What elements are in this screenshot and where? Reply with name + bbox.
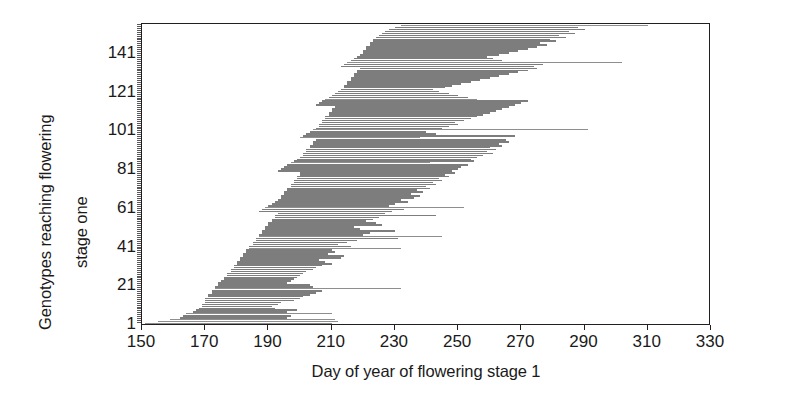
genotype-bar [275,201,408,203]
genotype-bar [351,60,503,62]
x-axis-tick-label: 330 [680,332,740,351]
x-axis-title: Day of year of flowering stage 1 [141,362,711,381]
genotype-bar [240,257,341,259]
x-axis-tick-label: 230 [364,332,424,351]
genotype-bar [278,213,385,215]
genotype-bar [215,288,402,289]
genotype-bar [297,178,439,180]
genotype-bar [360,68,537,70]
genotype-bar [347,83,461,85]
genotype-bar [224,278,294,280]
genotype-bar [370,42,541,44]
genotype-bar [316,104,515,106]
genotype-bar [246,251,335,253]
genotype-bar [268,205,388,207]
x-axis-tick [204,325,205,330]
y-axis-title: Genotypes reaching flowering stage one [0,0,96,340]
genotype-bar [385,31,568,33]
y-axis-tick-label: 101 [88,121,136,138]
genotype-bar [303,153,493,155]
genotype-bar [196,309,297,311]
genotype-bar [401,25,648,26]
genotype-bar [180,317,287,319]
genotype-bar [366,48,527,50]
genotype-bar [205,300,294,302]
genotype-bar [357,56,487,58]
genotype-bar [246,249,331,251]
genotype-bar [351,77,490,79]
x-axis-tick [141,325,142,330]
genotype-bar [294,182,433,184]
genotype-bar [237,263,332,265]
x-axis-tick-label: 210 [301,332,361,351]
genotype-bar [373,40,556,42]
genotype-bar [281,195,420,197]
y-axis-tick-label: 81 [88,160,136,177]
genotype-bar [329,97,468,99]
genotype-bar [224,277,297,279]
genotype-bar [215,286,313,288]
genotype-bar [208,296,303,298]
genotype-bar [373,39,550,41]
genotype-bar [347,81,470,83]
genotype-bar [376,37,566,39]
genotype-bar [357,71,518,73]
genotype-bar [310,145,503,147]
genotype-bar [313,143,500,145]
genotype-bar [145,323,332,324]
genotype-bar [278,199,401,201]
genotype-bar [249,248,401,249]
genotype-bar [294,180,443,182]
genotype-bar [322,100,527,102]
genotype-bar [344,85,451,87]
y-axis-title-line-1: Genotypes reaching flowering [36,115,55,331]
genotype-bar [344,64,543,66]
genotype-bar [278,170,452,172]
genotype-bar [379,35,559,37]
x-axis-tick [520,325,521,330]
plot-area [141,23,710,325]
genotype-bar [202,306,272,308]
genotype-bar [256,240,357,242]
genotype-bar [366,46,537,48]
genotype-bar [256,238,398,240]
genotype-bar [329,114,484,116]
y-axis-tick-label: 121 [88,83,136,100]
genotype-bar [316,128,442,130]
genotype-bar [294,160,474,162]
flowering-stage-chart: Genotypes reaching flowering stage one 1… [0,0,791,409]
genotype-bar [332,110,496,112]
genotype-bar [357,70,528,72]
y-axis-tick-label: 21 [88,276,136,293]
x-axis-tick-label: 270 [490,332,550,351]
x-axis-tick-label: 190 [237,332,297,351]
genotype-bar [259,211,392,213]
genotype-bar [284,191,423,193]
genotype-bar [335,106,509,108]
genotype-bar [306,151,486,153]
genotype-bar [262,232,369,234]
genotype-bar [221,280,291,282]
genotype-bar [316,139,506,141]
genotype-bar [300,157,477,159]
genotype-bar [322,120,464,122]
genotype-bar [344,87,445,89]
genotype-bar [234,267,316,269]
genotype-bar [272,219,373,221]
genotype-bar [319,102,521,104]
genotype-bar [287,164,467,166]
genotype-bar [389,29,585,31]
genotype-bar [268,224,382,226]
x-axis-tick-label: 150 [111,332,171,351]
genotype-bar [253,244,338,246]
genotype-bar [382,33,575,35]
genotype-bar [199,308,275,310]
x-axis-tick [331,325,332,330]
genotype-bar [354,58,493,60]
genotype-bar [231,271,307,273]
genotype-bar [275,217,379,219]
genotype-bar [291,162,430,163]
genotype-bar [262,209,404,211]
x-axis-tick-label: 170 [174,332,234,351]
genotype-bar [205,298,300,300]
